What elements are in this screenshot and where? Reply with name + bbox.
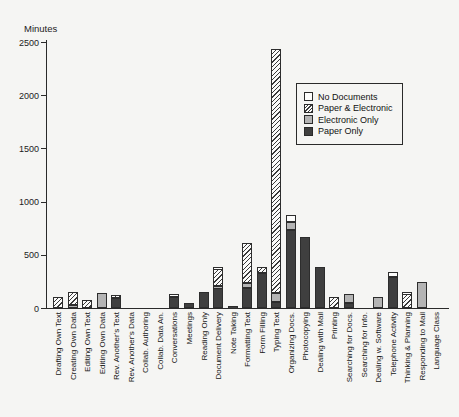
bar-segment-formatting-text-paper_only [242,288,252,308]
legend-entry-no_documents: No Documents [304,92,393,102]
bar-segment-formatting-text-electronic_only [242,283,252,288]
x-tick-label-note-taking: Note Taking [229,312,238,354]
x-tick-label-editing-own-text: Editing Own Text [83,312,92,372]
bar-segment-thinking-planning-no_documents [402,292,412,295]
bar-segment-drafting-own-text-paper_electronic [53,297,63,308]
bar-segment-thinking-planning-paper_electronic [402,294,412,308]
bar-segment-typing-text-paper_only [271,302,281,308]
x-tick-label-reading-only: Reading Only [200,312,209,360]
x-tick-label-responding-to-mail: Responding to Mail [418,312,427,380]
hatched-square-icon [304,104,313,113]
x-tick-label-language-class: Language Class [432,312,441,370]
bar-segment-organizing-docs-no_documents [286,215,296,222]
legend-entry-electronic_only: Electronic Only [304,115,393,125]
bar-segment-searching-for-docs-paper_only [344,303,354,308]
bar-segment-telephone-activity-no_documents [388,272,398,277]
x-tick-label-telephone-activity: Telephone Activity [389,312,398,376]
x-tick-label-meetings: Meetings [185,312,194,344]
bar-segment-searching-for-docs-electronic_only [344,294,354,303]
y-tick-label-2500: 2500 [6,38,39,48]
y-tick-1000 [41,202,46,203]
y-tick-label-2000: 2000 [6,91,39,101]
bar-segment-form-filling-paper_electronic [257,267,267,273]
x-tick-label-collab-data-an: Collab. Data An. [156,312,165,370]
bar-segment-rev-another-s-text-paper_only [111,298,121,308]
x-tick-label-formatting-text: Formatting Text [243,312,252,367]
bar-segment-dealing-with-mail-paper_only [315,267,325,308]
legend-label-no_documents: No Documents [318,92,378,102]
bar-segment-editing-own-data-electronic_only [97,293,107,308]
bar-segment-photocopying-paper_only [300,237,310,308]
y-tick-0 [41,308,46,309]
x-tick-label-creating-own-data: Creating Own Data [69,312,78,380]
y-tick-1500 [41,148,46,149]
bar-segment-formatting-text-paper_electronic [242,243,252,283]
x-tick-label-thinking-planning: Thinking & Planning [403,312,412,383]
legend-label-paper_only: Paper Only [318,126,363,136]
legend: No DocumentsPaper & ElectronicElectronic… [296,83,403,145]
x-tick-label-searching-for-docs: Searching for Docs. [345,312,354,382]
y-axis-line [46,40,47,309]
bar-segment-creating-own-data-paper_electronic [68,292,78,305]
x-tick-label-conversations: Conversations [170,312,179,363]
white-square-icon [304,92,313,101]
bar-segment-reading-only-paper_only [199,292,209,308]
x-tick-label-searching-for-info: Searching for Info. [360,312,369,377]
dark-square-icon [304,127,313,136]
x-tick-label-typing-text: Typing Text [272,312,281,352]
x-tick-label-drafting-own-text: Drafting Own Text [54,312,63,375]
x-tick-label-editing-own-data: Editing Own Data [98,312,107,374]
y-tick-label-0: 0 [6,304,39,314]
y-tick-label-1500: 1500 [6,144,39,154]
bar-segment-responding-to-mail-electronic_only [417,282,427,308]
x-tick-label-printing: Printing [330,312,339,339]
bar-segment-document-delivery-electronic_only [213,286,223,289]
x-tick-label-document-delivery: Document Delivery [214,312,223,380]
y-axis-title: Minutes [24,23,57,34]
bar-segment-rev-another-s-text-paper_electronic [111,295,121,298]
bar-segment-organizing-docs-electronic_only [286,222,296,229]
y-tick-500 [41,255,46,256]
x-tick-label-rev-another-s-data: Rev. Another's Data [127,312,136,382]
y-tick-label-1000: 1000 [6,197,39,207]
bar-segment-creating-own-data-electronic_only [68,305,78,308]
bar-segment-typing-text-electronic_only [271,293,281,302]
bar-segment-conversations-no_documents [169,294,179,297]
legend-entry-paper_only: Paper Only [304,126,393,136]
bar-segment-document-delivery-paper_only [213,288,223,308]
bar-segment-conversations-paper_only [169,297,179,308]
y-tick-label-500: 500 [6,250,39,260]
bar-segment-telephone-activity-paper_only [388,277,398,308]
bar-segment-dealing-w-software-electronic_only [373,297,383,308]
x-tick-label-dealing-with-mail: Dealing with Mail [316,312,325,372]
legend-label-electronic_only: Electronic Only [318,115,379,125]
gray-square-icon [304,115,313,124]
x-axis-line [46,308,449,309]
x-tick-label-rev-another-s-text: Rev. Another's Text [112,312,121,380]
bar-segment-organizing-docs-paper_only [286,230,296,308]
figure-page: Minutes No DocumentsPaper & ElectronicEl… [0,0,459,417]
legend-entry-paper_electronic: Paper & Electronic [304,103,393,113]
bar-segment-form-filling-paper_only [257,273,267,308]
bar-segment-typing-text-paper_electronic [271,49,281,293]
x-tick-label-dealing-w-software: Dealing w. Software [374,312,383,383]
x-tick-label-organizing-docs: Organizing Docs. [287,312,296,373]
x-tick-label-photocopying: Photocopying [301,312,310,360]
y-tick-2500 [41,42,46,43]
legend-label-paper_electronic: Paper & Electronic [318,103,393,113]
x-tick-label-collab-authoring: Collab. Authoring [141,312,150,373]
bar-segment-document-delivery-no_documents [213,267,223,270]
bar-segment-editing-own-text-paper_electronic [82,300,92,308]
bar-segment-note-taking-paper_only [228,306,238,309]
bar-segment-printing-paper_electronic [329,297,339,308]
bar-segment-meetings-paper_only [184,303,194,308]
y-tick-2000 [41,95,46,96]
x-tick-label-form-filling: Form Filling [258,312,267,354]
bar-segment-document-delivery-paper_electronic [213,269,223,286]
